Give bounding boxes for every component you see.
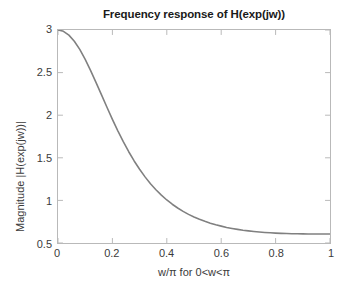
x-tick-label: 0.6 [201,247,241,259]
plot-svg [58,30,330,243]
y-tick-label: 2.5 [10,66,52,78]
x-tick-label: 0.2 [92,247,132,259]
x-tick-marks [58,30,330,243]
plot-area [57,29,331,244]
figure-canvas: Frequency response of H(exp(jw)) 0.511.5… [0,0,345,297]
y-tick-label: 3 [10,23,52,35]
y-tick-marks [58,30,330,243]
x-axis-title: w/π for 0<w<π [57,266,331,278]
y-tick-label: 2 [10,109,52,121]
data-series-line [58,30,330,234]
y-axis-title: Magnitude |H(exp(jw))| [14,121,26,232]
x-tick-label: 0.4 [147,247,187,259]
x-tick-label: 0.8 [256,247,296,259]
x-tick-label: 0 [37,247,77,259]
x-tick-label: 1 [311,247,345,259]
page-title: Frequency response of H(exp(jw)) [57,8,331,20]
